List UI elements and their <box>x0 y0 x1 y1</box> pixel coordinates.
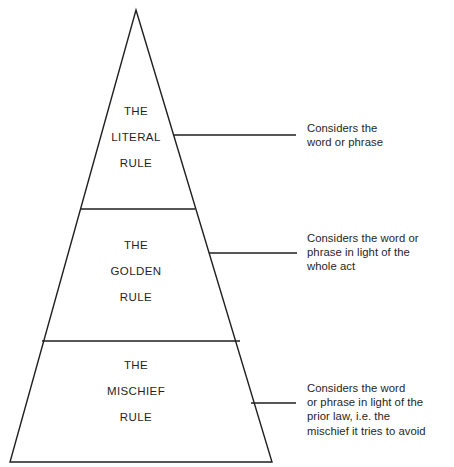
tier-label-literal-line-3: RULE <box>86 150 186 176</box>
annotation-mischief-line-1: Considers the word <box>307 381 426 395</box>
tier-label-mischief-line-1: THE <box>66 352 206 378</box>
annotation-mischief-line-3: prior law, i.e. the <box>307 409 426 423</box>
tier-label-golden-line-2: GOLDEN <box>76 258 196 284</box>
annotation-golden-line-2: phrase in light of the <box>307 245 419 259</box>
annotation-literal-line-2: word or phrase <box>307 135 383 149</box>
tier-label-golden-line-1: THE <box>76 232 196 258</box>
annotation-golden-line-3: whole act <box>307 259 419 273</box>
tier-label-mischief-line-3: RULE <box>66 404 206 430</box>
pyramid-diagram: THE LITERAL RULE THE GOLDEN RULE THE MIS… <box>0 0 454 467</box>
tier-label-golden: THE GOLDEN RULE <box>76 232 196 310</box>
tier-label-literal: THE LITERAL RULE <box>86 98 186 176</box>
annotation-mischief-line-2: or phrase in light of the <box>307 395 426 409</box>
annotation-mischief-line-4: mischief it tries to avoid <box>307 424 426 438</box>
annotation-literal-line-1: Considers the <box>307 121 383 135</box>
tier-label-literal-line-2: LITERAL <box>86 124 186 150</box>
annotation-golden-line-1: Considers the word or <box>307 231 419 245</box>
annotation-golden: Considers the word or phrase in light of… <box>307 231 419 274</box>
tier-label-golden-line-3: RULE <box>76 284 196 310</box>
annotation-literal: Considers the word or phrase <box>307 121 383 149</box>
tier-label-mischief: THE MISCHIEF RULE <box>66 352 206 430</box>
tier-label-literal-line-1: THE <box>86 98 186 124</box>
tier-label-mischief-line-2: MISCHIEF <box>66 378 206 404</box>
annotation-mischief: Considers the word or phrase in light of… <box>307 381 426 438</box>
